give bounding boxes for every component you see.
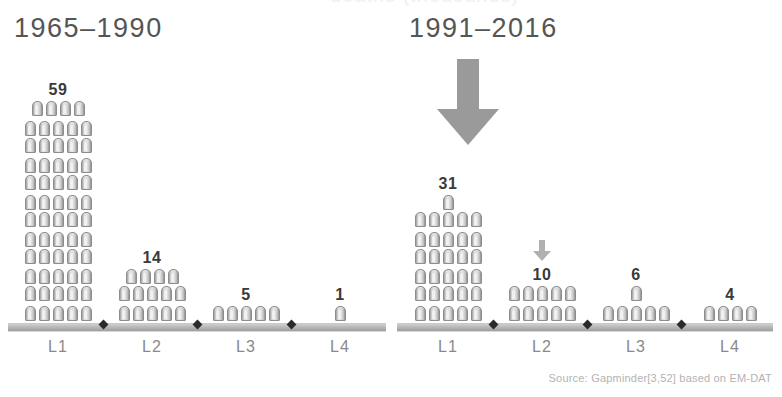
gravestone-icon	[53, 286, 64, 301]
pictogram-row	[601, 306, 671, 323]
gravestone-icon	[81, 286, 92, 301]
gravestone-icon	[39, 121, 50, 136]
gravestone-icon	[471, 269, 482, 284]
gravestone-icon	[718, 306, 729, 321]
category-label-l4: L4	[294, 338, 386, 356]
gravestone-icon	[81, 249, 92, 264]
gravestone-icon	[732, 306, 743, 321]
bar-group-l1[interactable]: 31L1	[402, 0, 494, 397]
gravestone-icon	[46, 101, 57, 116]
bar-group-l3[interactable]: 6L3	[590, 0, 682, 397]
gravestone-icon	[67, 269, 78, 284]
pictogram-row	[333, 306, 347, 323]
bar-group-l4[interactable]: 4L4	[684, 0, 776, 397]
value-label: 31	[402, 175, 494, 193]
gravestone-icon	[67, 286, 78, 301]
gravestone-icon	[39, 286, 50, 301]
pictogram-row	[413, 249, 483, 266]
gravestone-icon	[25, 269, 36, 284]
gravestone-icon	[443, 212, 454, 227]
pictogram-stack	[12, 101, 104, 323]
gravestone-icon	[67, 121, 78, 136]
gravestone-icon	[704, 306, 715, 321]
gravestone-icon	[67, 195, 78, 210]
pictogram-row	[23, 175, 93, 192]
gravestone-icon	[53, 249, 64, 264]
gravestone-icon	[67, 138, 78, 153]
gravestone-icon	[81, 121, 92, 136]
value-label: 5	[200, 286, 292, 304]
gravestone-icon	[60, 101, 71, 116]
pictogram-row	[413, 286, 483, 303]
bar-group-l3[interactable]: 5L3	[200, 0, 292, 397]
gravestone-icon	[25, 175, 36, 190]
gravestone-icon	[39, 232, 50, 247]
pictogram-row	[124, 269, 180, 286]
gravestone-icon	[133, 306, 144, 321]
gravestone-icon	[255, 306, 266, 321]
gravestone-icon	[81, 269, 92, 284]
gravestone-icon	[565, 286, 576, 301]
pictogram-row	[23, 195, 93, 212]
pictogram-row	[117, 306, 187, 323]
pictogram-row	[23, 269, 93, 286]
category-label-l4: L4	[684, 338, 776, 356]
gravestone-icon	[154, 269, 165, 284]
gravestone-icon	[457, 269, 468, 284]
gravestone-icon	[67, 212, 78, 227]
gravestone-icon	[67, 249, 78, 264]
pictogram-stack	[496, 286, 588, 323]
gravestone-icon	[645, 306, 656, 321]
gravestone-icon	[471, 306, 482, 321]
gravestone-icon	[471, 249, 482, 264]
value-label: 59	[12, 81, 104, 99]
bar-group-l1[interactable]: 59L1	[12, 0, 104, 397]
gravestone-icon	[119, 306, 130, 321]
gravestone-icon	[213, 306, 224, 321]
gravestone-icon	[631, 286, 642, 301]
gravestone-icon	[161, 286, 172, 301]
pictogram-row	[23, 306, 93, 323]
pictogram-stack	[294, 306, 386, 323]
pictogram-row	[23, 286, 93, 303]
gravestone-icon	[53, 212, 64, 227]
source-note: Source: Gapminder[3,52] based on EM-DAT	[549, 372, 772, 384]
value-label: 4	[684, 286, 776, 304]
gravestone-icon	[25, 158, 36, 173]
value-label: 14	[106, 249, 198, 267]
value-label: 1	[294, 286, 386, 304]
gravestone-icon	[659, 306, 670, 321]
pictogram-row	[507, 286, 577, 303]
gravestone-icon	[471, 212, 482, 227]
gravestone-icon	[443, 269, 454, 284]
gravestone-icon	[147, 286, 158, 301]
gravestone-icon	[67, 158, 78, 173]
pictogram-row	[413, 212, 483, 229]
gravestone-icon	[53, 121, 64, 136]
gravestone-icon	[457, 249, 468, 264]
value-label: 6	[590, 266, 682, 284]
bar-group-l2[interactable]: 10L2	[496, 0, 588, 397]
gravestone-icon	[523, 306, 534, 321]
bar-group-l2[interactable]: 14L2	[106, 0, 198, 397]
gravestone-icon	[53, 232, 64, 247]
gravestone-icon	[175, 286, 186, 301]
gravestone-icon	[67, 306, 78, 321]
gravestone-icon	[457, 306, 468, 321]
gravestone-icon	[39, 269, 50, 284]
bar-group-l4[interactable]: 1L4	[294, 0, 386, 397]
small-decline-arrow-icon	[532, 240, 552, 262]
gravestone-icon	[67, 232, 78, 247]
gravestone-icon	[551, 286, 562, 301]
gravestone-icon	[471, 232, 482, 247]
gravestone-icon	[25, 286, 36, 301]
gravestone-icon	[39, 175, 50, 190]
gravestone-icon	[53, 175, 64, 190]
gravestone-icon	[429, 232, 440, 247]
gravestone-icon	[81, 232, 92, 247]
pictogram-row	[507, 306, 577, 323]
gravestone-icon	[429, 212, 440, 227]
gravestone-icon	[443, 195, 454, 210]
gravestone-icon	[25, 306, 36, 321]
gravestone-icon	[53, 195, 64, 210]
